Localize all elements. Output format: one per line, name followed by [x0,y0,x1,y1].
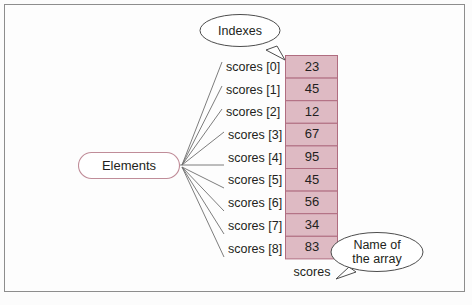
array-name-callout-line-1: Name of [331,238,423,252]
elements-box-label: Elements [78,159,180,172]
array-cell-value-1: 45 [285,82,339,95]
array-index-label-2: scores [2] [226,106,280,119]
array-index-label-5: scores [5] [228,174,282,187]
array-index-label-4: scores [4] [228,152,282,165]
array-cell-value-7: 34 [285,218,339,231]
array-index-label-1: scores [1] [226,84,280,97]
array-cell-value-2: 12 [285,105,339,118]
array-cell-value-3: 67 [285,127,339,140]
array-cell-value-6: 56 [285,195,339,208]
array-cell-value-8: 83 [285,240,339,253]
array-index-label-6: scores [6] [228,197,282,210]
array-name-label: scores [283,266,341,279]
fan-line-1 [182,86,222,165]
array-cell-value-0: 23 [285,60,339,73]
array-index-label-3: scores [3] [228,129,282,142]
array-name-callout-line-2: the array [331,252,423,266]
array-index-label-7: scores [7] [228,220,282,233]
array-index-label-0: scores [0] [226,61,280,74]
array-cell-value-5: 45 [285,173,339,186]
fan-line-6 [182,167,224,211]
array-diagram-figure: Elements Indexes Name of the array score… [0,0,472,305]
indexes-callout-label: Indexes [200,24,280,38]
fan-line-2 [182,109,222,165]
elements-fan-lines [180,62,224,257]
array-index-label-8: scores [8] [228,243,282,256]
array-cell-value-4: 95 [285,150,339,163]
fan-line-8 [182,167,224,257]
